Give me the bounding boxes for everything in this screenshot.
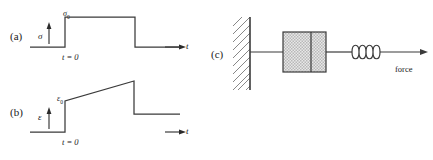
- fixed-wall: [233, 17, 250, 90]
- spring: [352, 45, 380, 59]
- dashpot: [283, 32, 326, 72]
- panel-c-model: [0, 0, 433, 160]
- figure-container: (a) σ σ0 t = 0 t (b) ε ε0 t = 0 t: [0, 0, 433, 160]
- force-arrow: [380, 49, 428, 55]
